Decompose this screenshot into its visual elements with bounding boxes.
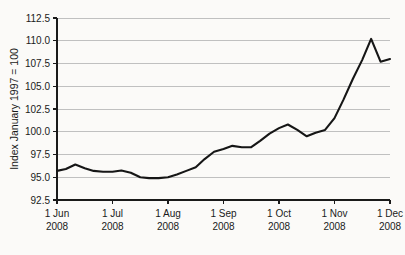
y-tick-labels-group: 92.595.097.5100.0102.5105.0107.5110.0112… bbox=[25, 13, 50, 206]
gridlines-group bbox=[57, 18, 390, 177]
x-tick-label-year-5: 2008 bbox=[323, 221, 346, 232]
y-tick-label-97.5: 97.5 bbox=[31, 149, 51, 160]
x-tick-label-month-0: 1 Jun bbox=[45, 208, 69, 219]
data-series-line bbox=[57, 39, 390, 178]
x-tick-label-year-1: 2008 bbox=[101, 221, 124, 232]
y-tick-label-95.0: 95.0 bbox=[31, 172, 51, 183]
chart-canvas: 92.595.097.5100.0102.5105.0107.5110.0112… bbox=[0, 0, 405, 255]
y-tick-label-107.5: 107.5 bbox=[25, 58, 50, 69]
x-tick-labels-group: 1 Jun20081 Jul20081 Aug20081 Sep20081 Oc… bbox=[45, 208, 403, 232]
y-tick-label-110.0: 110.0 bbox=[26, 35, 51, 46]
y-tick-label-105.0: 105.0 bbox=[25, 81, 50, 92]
x-tick-label-month-1: 1 Jul bbox=[102, 208, 123, 219]
line-chart-figure: 92.595.097.5100.0102.5105.0107.5110.0112… bbox=[0, 0, 405, 255]
y-tick-label-100.0: 100.0 bbox=[25, 126, 50, 137]
y-tick-label-102.5: 102.5 bbox=[25, 104, 50, 115]
x-tick-label-year-3: 2008 bbox=[212, 221, 235, 232]
x-tick-label-year-4: 2008 bbox=[268, 221, 291, 232]
x-tick-label-month-5: 1 Nov bbox=[321, 208, 347, 219]
x-tick-label-year-2: 2008 bbox=[157, 221, 180, 232]
x-tick-label-month-2: 1 Aug bbox=[155, 208, 181, 219]
x-tick-label-month-3: 1 Sep bbox=[210, 208, 237, 219]
x-tick-label-month-6: 1 Dec bbox=[377, 208, 403, 219]
y-axis-title: Index January 1997 = 100 bbox=[8, 48, 20, 170]
x-tick-label-year-6: 2008 bbox=[379, 221, 402, 232]
y-tick-label-92.5: 92.5 bbox=[31, 195, 51, 206]
x-tick-label-year-0: 2008 bbox=[46, 221, 69, 232]
y-tick-label-112.5: 112.5 bbox=[26, 13, 51, 24]
x-tick-label-month-4: 1 Oct bbox=[267, 208, 291, 219]
